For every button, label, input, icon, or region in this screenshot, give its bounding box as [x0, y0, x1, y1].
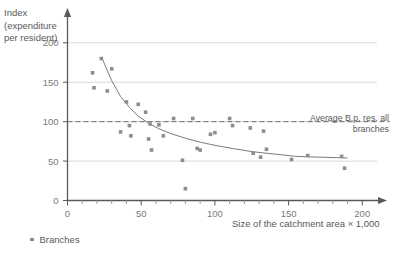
data-point: [125, 100, 129, 104]
y-tick-group: [63, 43, 68, 201]
average-annotation-line-1: Average B.p. res. all: [310, 113, 389, 124]
y-axis-title-line-1: Index: [4, 7, 57, 20]
data-point: [306, 154, 310, 158]
x-tick-label-50: 50: [136, 208, 147, 219]
data-point: [110, 67, 114, 71]
data-point: [105, 89, 109, 93]
data-point: [128, 124, 132, 128]
legend: Branches: [30, 234, 80, 245]
scatter-chart: 050100150200 050100150200 Index (expendi…: [0, 0, 393, 255]
data-point: [148, 122, 152, 126]
data-point: [157, 123, 161, 127]
data-point: [144, 110, 148, 114]
trendline: [103, 60, 348, 158]
data-point: [129, 134, 133, 138]
x-axis-arrowhead: [378, 197, 387, 204]
x-tick-group: [68, 201, 363, 206]
data-point: [213, 131, 217, 135]
y-axis-arrowhead: [64, 8, 71, 17]
data-point: [191, 117, 195, 121]
branches-marker-icon: [30, 238, 34, 242]
data-point: [119, 130, 123, 134]
average-reference-annotation: Average B.p. res. all branches: [310, 113, 389, 135]
data-point: [162, 134, 166, 138]
data-point: [181, 158, 185, 162]
y-tick-label-100: 100: [43, 116, 59, 127]
x-tick-label-150: 150: [281, 208, 297, 219]
data-point: [150, 148, 154, 152]
legend-item-branches-label: Branches: [40, 234, 80, 245]
data-point: [198, 148, 202, 152]
y-axis-title-line-2: (expenditure: [4, 20, 57, 33]
data-point: [147, 137, 151, 141]
y-tick-label-50: 50: [48, 156, 59, 167]
data-point: [91, 71, 95, 75]
data-point: [259, 155, 263, 159]
x-tick-label-0: 0: [65, 208, 70, 219]
y-tick-label-0: 0: [53, 195, 58, 206]
y-tick-labels: 050100150200: [43, 37, 59, 206]
data-point: [136, 103, 140, 107]
data-point: [265, 147, 269, 151]
data-point: [209, 132, 213, 136]
trendline-path: [103, 60, 348, 158]
data-point: [248, 126, 252, 130]
data-point-group: [91, 57, 347, 191]
average-annotation-line-2: branches: [310, 124, 389, 135]
x-tick-label-200: 200: [354, 208, 370, 219]
y-axis-title: Index (expenditure per resident): [4, 7, 57, 45]
data-point: [340, 155, 344, 159]
data-point: [228, 117, 232, 121]
data-point: [262, 129, 266, 133]
gridline-group: [68, 43, 378, 161]
x-axis-title: Size of the catchment area × 1,000: [232, 218, 380, 229]
y-tick-label-150: 150: [43, 77, 59, 88]
data-point: [251, 151, 255, 155]
axis-group: [64, 8, 387, 204]
data-point: [92, 86, 96, 90]
y-axis-title-line-3: per resident): [4, 32, 57, 45]
data-point: [100, 57, 104, 61]
x-tick-labels: 050100150200: [65, 208, 370, 219]
data-point: [290, 158, 294, 162]
data-point: [231, 124, 235, 128]
data-point: [343, 166, 347, 170]
x-tick-label-100: 100: [207, 208, 223, 219]
data-point: [184, 187, 188, 191]
data-point: [172, 117, 176, 121]
